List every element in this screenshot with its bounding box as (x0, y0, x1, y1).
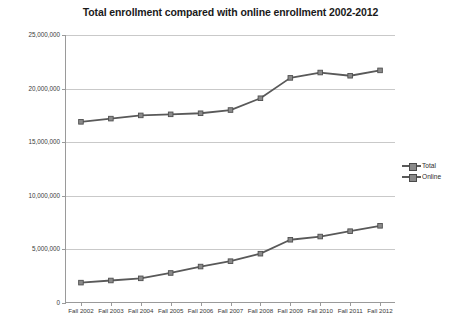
data-point-marker (198, 264, 203, 269)
data-point-marker (258, 96, 263, 101)
x-axis-tick-label: Fall 2012 (357, 307, 403, 314)
legend-swatch-icon (402, 161, 421, 170)
series-line-total (81, 70, 380, 121)
x-axis-tick-labels: Fall 2002Fall 2003Fall 2004Fall 2005Fall… (66, 307, 395, 321)
x-axis-tick (141, 303, 142, 306)
legend-item-total[interactable]: Total (402, 160, 460, 171)
x-axis-tick (290, 303, 291, 306)
x-axis-tick (171, 303, 172, 306)
data-point-marker (79, 280, 84, 285)
x-axis-tick (231, 303, 232, 306)
y-axis-tick (62, 303, 66, 304)
data-point-marker (318, 70, 323, 75)
plot-area (66, 35, 395, 303)
data-point-marker (228, 259, 233, 264)
data-point-marker (258, 251, 263, 256)
data-point-marker (378, 224, 383, 229)
y-axis-tick-label: 15,000,000 (2, 138, 60, 145)
data-point-marker (138, 276, 143, 281)
data-point-marker (138, 113, 143, 118)
data-point-marker (168, 112, 173, 117)
data-point-marker (348, 73, 353, 78)
data-point-marker (109, 116, 114, 121)
data-point-marker (109, 278, 114, 283)
series-plot (66, 35, 395, 303)
data-point-marker (348, 229, 353, 234)
data-point-marker (168, 271, 173, 276)
data-point-marker (288, 237, 293, 242)
data-point-marker (318, 234, 323, 239)
chart-legend: TotalOnline (402, 160, 460, 182)
x-axis-tick (350, 303, 351, 306)
legend-label: Online (421, 173, 441, 180)
y-axis-tick-label: 25,000,000 (2, 31, 60, 38)
chart-container: Total enrollment compared with online en… (0, 0, 461, 335)
data-point-marker (228, 108, 233, 113)
chart-title: Total enrollment compared with online en… (0, 6, 461, 18)
y-axis-tick-label: 5,000,000 (2, 245, 60, 252)
x-axis-tick (201, 303, 202, 306)
y-axis-tick-label: 20,000,000 (2, 85, 60, 92)
data-point-marker (79, 120, 84, 125)
x-axis-tick (260, 303, 261, 306)
x-axis-tick (81, 303, 82, 306)
x-axis-tick (320, 303, 321, 306)
data-point-marker (288, 76, 293, 81)
legend-label: Total (421, 162, 436, 169)
y-axis-tick-label: 0 (2, 299, 60, 306)
legend-swatch-icon (402, 172, 421, 181)
x-axis-tick (380, 303, 381, 306)
y-axis-tick-label: 10,000,000 (2, 192, 60, 199)
data-point-marker (198, 111, 203, 116)
legend-item-online[interactable]: Online (402, 171, 460, 182)
x-axis-tick (111, 303, 112, 306)
data-point-marker (378, 68, 383, 73)
series-line-online (81, 226, 380, 283)
